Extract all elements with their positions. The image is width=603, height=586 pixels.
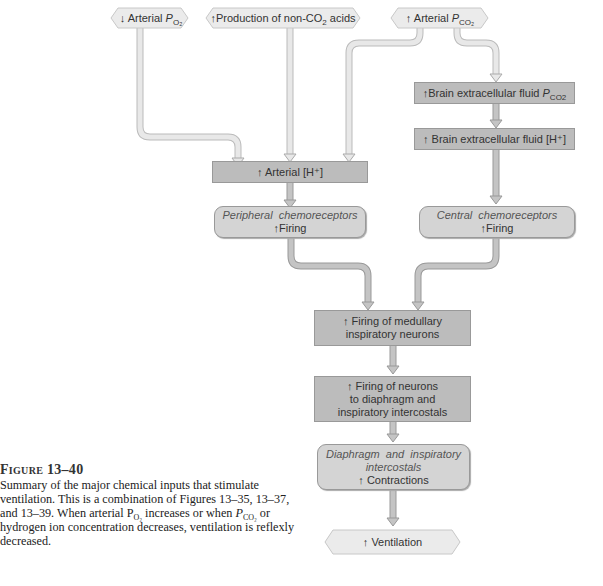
title-line-2: intercostals: [366, 461, 422, 474]
title: Central chemoreceptors: [437, 209, 557, 222]
label: Production of non-CO: [216, 12, 322, 24]
label: Brain extracellular fluid [H⁺]: [432, 133, 566, 145]
subscript: CO2: [550, 93, 566, 102]
line-2: to diaphragm and: [350, 393, 436, 406]
up-arrow-icon: ↑: [343, 315, 349, 327]
line-1: Firing of medullary: [352, 315, 442, 327]
label: Firing: [279, 222, 307, 234]
symbol: P: [166, 12, 173, 24]
input-non-co2-acids: ↑Production of non-CO2 acids: [210, 8, 356, 28]
up-arrow-icon: ↑: [423, 133, 429, 145]
line-2: inspiratory neurons: [346, 328, 440, 341]
figure-number: Figure 13–40: [0, 462, 300, 478]
figure-caption: Figure 13–40 Summary of the major chemic…: [0, 462, 300, 548]
brain-ecf-pco2-box: ↑Brain extracellular fluid PCO2: [414, 82, 575, 104]
motor-neurons-box: ↑ Firing of neurons to diaphragm and ins…: [314, 376, 471, 422]
label: Arterial: [128, 12, 166, 24]
subscript: O₂: [173, 18, 182, 27]
label: Brain extracellular fluid: [428, 87, 542, 99]
title-line-1: Diaphragm and inspiratory: [326, 448, 461, 461]
label: Arterial [H⁺]: [265, 166, 323, 178]
title: Peripheral chemoreceptors: [222, 209, 357, 222]
caption-body-2: increases or when: [142, 506, 235, 520]
label: Arterial: [414, 12, 452, 24]
output-ventilation: ↑ Ventilation: [333, 530, 452, 554]
caption-text: Summary of the major chemical inputs tha…: [0, 478, 300, 548]
peripheral-chemoreceptors-box: Peripheral chemoreceptors ↑Firing: [214, 206, 366, 238]
label: Contractions: [367, 474, 429, 486]
subscript: CO₂: [459, 18, 474, 27]
up-arrow-icon: ↑: [257, 166, 263, 178]
down-arrow-icon: ↓: [120, 12, 126, 24]
symbol: P: [543, 87, 550, 99]
input-high-arterial-pco2: ↑ Arterial PCO₂: [396, 8, 484, 28]
label: Firing: [486, 222, 514, 234]
up-arrow-icon: ↑: [358, 474, 364, 486]
symbol: P: [452, 12, 459, 24]
line-3: inspiratory intercostals: [338, 406, 447, 419]
brain-ecf-h-box: ↑ Brain extracellular fluid [H⁺]: [414, 128, 575, 150]
input-low-arterial-po2: ↓ Arterial PO₂: [116, 8, 186, 28]
symbol: P: [235, 506, 242, 520]
up-arrow-icon: ↑: [363, 536, 369, 548]
arterial-h-box: ↑ Arterial [H⁺]: [212, 161, 368, 183]
medullary-neurons-box: ↑ Firing of medullary inspiratory neuron…: [314, 310, 471, 346]
diaphragm-intercostals-box: Diaphragm and inspiratory intercostals ↑…: [317, 444, 470, 490]
label-suffix: acids: [327, 12, 356, 24]
up-arrow-icon: ↑: [406, 12, 412, 24]
label: Ventilation: [371, 536, 422, 548]
central-chemoreceptors-box: Central chemoreceptors ↑Firing: [419, 206, 575, 238]
line-1: Firing of neurons: [352, 380, 438, 392]
